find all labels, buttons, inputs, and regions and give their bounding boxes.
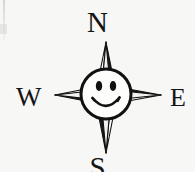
cardinal-label-south: S	[0, 153, 195, 172]
cardinal-label-west: W	[16, 84, 41, 111]
cardinal-label-north: N	[0, 8, 195, 37]
smiley-mouth-right-tick	[118, 98, 120, 102]
smiley-right-eye	[110, 81, 116, 91]
compass-center-circle	[81, 69, 131, 119]
cardinal-label-east: E	[170, 85, 186, 111]
compass-rose-figure: N W E S	[0, 0, 195, 172]
smiley-mouth-left-tick	[93, 98, 95, 101]
smiley-left-eye	[96, 81, 102, 91]
